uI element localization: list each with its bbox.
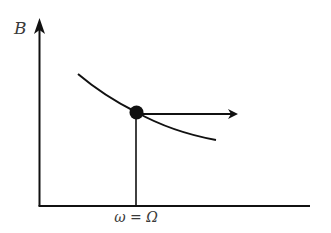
curve-point [130, 106, 144, 120]
diagram-canvas: B ω = Ω [0, 0, 331, 233]
x-tick-label: ω = Ω [114, 209, 158, 225]
decreasing-curve [78, 74, 216, 140]
y-axis-label: B [13, 18, 27, 38]
